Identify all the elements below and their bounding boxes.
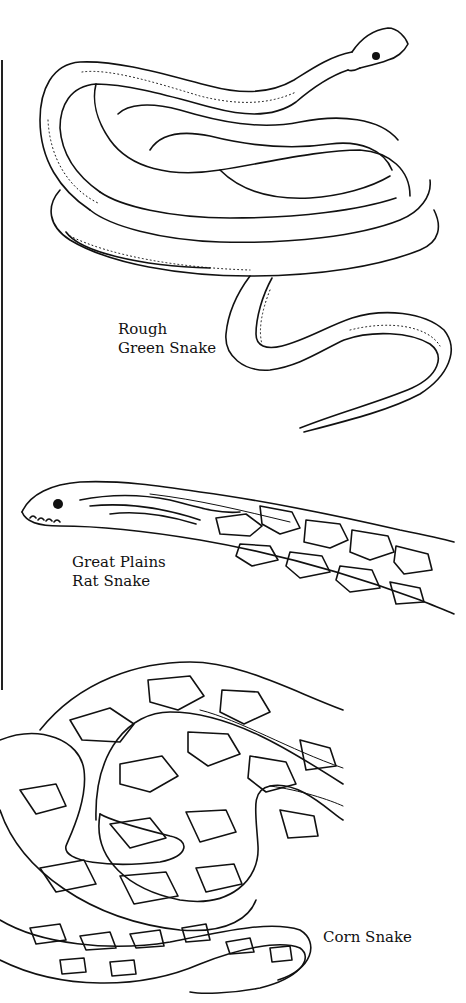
label-line-1: Corn Snake (323, 928, 412, 947)
corn-snake-label: Corn Snake (323, 928, 412, 947)
coloring-page: Rough Green Snake Great Plains (0, 0, 466, 1003)
corn-snake-illustration (0, 0, 466, 1003)
